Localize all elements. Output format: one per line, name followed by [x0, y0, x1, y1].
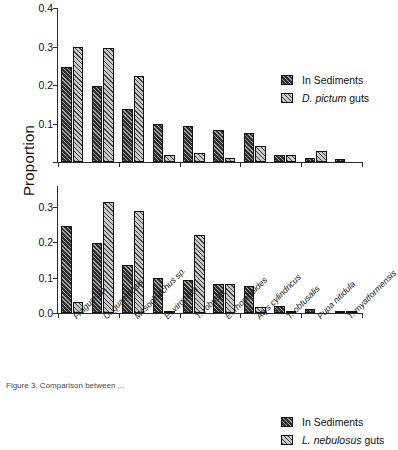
bar-sediments: [305, 309, 315, 313]
legend-bottom: In SedimentsL. nebulosus guts: [281, 414, 384, 450]
bar-sediments: [153, 124, 163, 163]
bar-guts: [225, 158, 235, 162]
bar-sediments: [61, 67, 71, 162]
x-axis-tick-labels: Fragum sp.U. guamensisMesoclanchus sp.E.…: [57, 314, 362, 376]
bar-sediments: [244, 133, 254, 162]
legend-swatch-sed: [281, 417, 293, 427]
bar-guts: [194, 153, 204, 162]
y-axis-tick: [53, 207, 58, 208]
bar-guts: [134, 76, 144, 162]
bar-sediments: [335, 159, 345, 162]
y-axis-title: Proportion: [20, 86, 37, 236]
y-axis-tick-label: 0.4: [38, 2, 53, 14]
bar-sediments: [335, 311, 345, 313]
x-axis-tick: [180, 162, 181, 167]
bar-guts: [73, 47, 83, 163]
legend-label: In Sediments: [302, 74, 363, 86]
y-axis-tick: [53, 85, 58, 86]
bar-sediments: [122, 109, 132, 162]
legend-item: In Sediments: [281, 72, 369, 87]
bar-sediments: [305, 158, 315, 162]
bar-guts: [103, 48, 113, 162]
y-axis-tick-label: 0.1: [38, 272, 53, 284]
legend-label: In Sediments: [302, 416, 363, 428]
bar-sediments: [213, 130, 223, 162]
bar-guts: [194, 235, 204, 313]
y-axis-tick-label: 0.1: [38, 118, 53, 130]
legend-swatch-gut: [281, 435, 293, 445]
legend-item: L. nebulosus guts: [281, 432, 384, 447]
legend-label: D. pictum guts: [302, 92, 369, 104]
bar-guts: [255, 146, 265, 162]
y-axis-tick: [53, 124, 58, 125]
bar-group: [88, 8, 118, 162]
bar-guts: [164, 155, 174, 162]
y-axis-tick-label: 0.3: [38, 201, 53, 213]
bar-group: [119, 8, 149, 162]
bar-group: [240, 8, 270, 162]
bar-sediments: [274, 155, 284, 162]
legend-top: In SedimentsD. pictum guts: [281, 72, 369, 108]
bar-group: [149, 8, 179, 162]
y-axis-tick: [53, 242, 58, 243]
y-axis-tick-label: 0.2: [38, 236, 53, 248]
bar-sediments: [92, 86, 102, 162]
y-axis-tick-label: 0.0: [38, 307, 53, 319]
x-axis-tick: [119, 162, 120, 167]
bar-group: [58, 8, 88, 162]
bar-guts: [103, 202, 113, 313]
x-axis-tick: [301, 162, 302, 167]
bar-sediments: [61, 226, 71, 313]
bar-sediments: [274, 306, 284, 313]
y-axis-tick: [53, 8, 58, 9]
bar-group: [210, 8, 240, 162]
bar-group: [58, 186, 88, 313]
y-axis-tick: [53, 278, 58, 279]
bar-group: [180, 8, 210, 162]
y-axis-tick: [53, 47, 58, 48]
figure-caption: Figure 3. Comparison between ...: [6, 381, 376, 390]
x-axis-tick: [58, 162, 59, 167]
bar-guts: [134, 211, 144, 313]
bar-sediments: [183, 126, 193, 162]
y-axis-tick-label: 0.2: [38, 79, 53, 91]
legend-swatch-gut: [281, 93, 293, 103]
bar-guts: [286, 155, 296, 162]
x-axis-tick: [362, 162, 363, 167]
legend-swatch-sed: [281, 75, 293, 85]
legend-label: L. nebulosus guts: [302, 434, 384, 446]
chart-panel-top: 0.10.20.30.4 In SedimentsD. pictum guts: [57, 8, 362, 163]
y-axis-tick-label: 0.3: [38, 41, 53, 53]
legend-item: D. pictum guts: [281, 90, 369, 105]
bar-guts: [316, 151, 326, 162]
legend-item: In Sediments: [281, 414, 384, 429]
x-axis-tick: [362, 313, 363, 318]
x-axis-tick: [240, 162, 241, 167]
